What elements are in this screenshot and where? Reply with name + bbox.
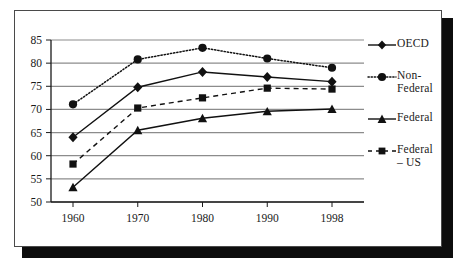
data-point-marker [133,82,142,92]
legend-label-non-federal: Non- Federal [397,69,433,94]
y-axis-tick-label: 65 [31,127,43,139]
data-point-marker [134,55,142,63]
data-point-marker [69,160,76,167]
legend-label-oecd: OECD [397,37,429,50]
data-point-marker [328,85,335,92]
legend-label-federal: Federal [397,111,433,124]
y-axis-tick-label: 75 [31,80,43,92]
data-point-marker [263,54,271,62]
data-point-marker [328,64,336,72]
legend-item-non-federal: Non- Federal [367,69,445,94]
series-federal [68,105,336,192]
data-point-marker [327,77,336,87]
data-point-marker [199,94,206,101]
y-axis-tick-label: 70 [31,103,43,115]
legend-label-federal-us: Federal – US [397,143,433,168]
figure-drop-shadow-bottom [22,247,453,258]
legend-key-federal-us [367,144,397,158]
x-axis-tick-label: 1960 [62,212,85,224]
chart-legend: OECD Non- Federal Fede [367,37,445,185]
x-axis-tick-label: 1980 [191,212,214,224]
data-point-marker [264,85,271,92]
figure-frame: 505560657075808519601970198019901998 OEC… [14,10,442,247]
scanned-figure-page: 505560657075808519601970198019901998 OEC… [0,0,460,261]
legend-key-non-federal [367,70,397,84]
data-point-marker [134,104,141,111]
y-axis-tick-label: 55 [31,173,43,185]
legend-key-federal [367,112,397,126]
y-axis-tick-label: 60 [31,150,43,162]
series-oecd [68,67,336,142]
data-point-marker [198,67,207,77]
data-point-marker [263,72,272,82]
data-point-marker [69,100,77,108]
legend-key-oecd [367,38,397,52]
y-axis-tick-label: 50 [31,196,43,208]
x-axis-tick-label: 1998 [321,212,344,224]
x-axis-tick-label: 1990 [256,212,279,224]
legend-item-oecd: OECD [367,37,445,52]
y-axis-tick-label: 85 [31,34,43,46]
x-axis-tick-label: 1970 [126,212,149,224]
legend-item-federal: Federal [367,111,445,126]
y-axis-tick-label: 80 [31,57,43,69]
data-point-marker [198,44,206,52]
legend-item-federal-us: Federal – US [367,143,445,168]
data-point-marker [68,132,77,142]
